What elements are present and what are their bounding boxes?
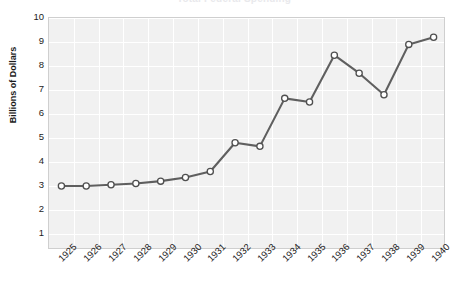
x-tick-label: 1940 bbox=[429, 241, 452, 264]
x-tick-label: 1925 bbox=[56, 241, 79, 264]
x-tick-label: 1935 bbox=[305, 241, 328, 264]
x-tick-label: 1936 bbox=[329, 241, 352, 264]
x-tick-label: 1931 bbox=[205, 241, 228, 264]
x-tick-label: 1928 bbox=[131, 241, 154, 264]
x-tick-label: 1930 bbox=[181, 241, 204, 264]
x-tick-label: 1927 bbox=[106, 241, 129, 264]
x-tick-label: 1932 bbox=[230, 241, 253, 264]
line-chart-figure: Total Federal Spending Billions of Dolla… bbox=[0, 0, 468, 299]
x-tick-label: 1933 bbox=[255, 241, 278, 264]
x-tick-label: 1937 bbox=[354, 241, 377, 264]
x-tick-label: 1926 bbox=[81, 241, 104, 264]
x-tick-label: 1929 bbox=[156, 241, 179, 264]
x-axis-tick-labels: 1925192619271928192919301931193219331934… bbox=[0, 0, 468, 299]
x-tick-label: 1938 bbox=[379, 241, 402, 264]
x-tick-label: 1934 bbox=[280, 241, 303, 264]
x-tick-label: 1939 bbox=[404, 241, 427, 264]
